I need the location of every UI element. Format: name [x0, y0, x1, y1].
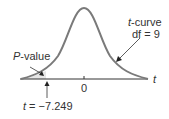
p-value-label: P-value [13, 51, 50, 62]
zero-tick-label: 0 [81, 83, 87, 94]
axis-label: t [153, 74, 156, 85]
curve-label-arrow [119, 38, 140, 59]
df-label: df = 9 [132, 29, 160, 40]
curve-label: t-curve [128, 17, 162, 28]
t-stat-label: t = −7.249 [23, 101, 73, 112]
t-stat-arrowhead [45, 81, 50, 86]
